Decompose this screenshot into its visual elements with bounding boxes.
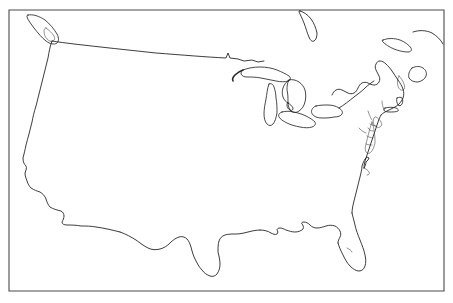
map-figure xyxy=(0,0,453,303)
map-background xyxy=(0,0,453,303)
map-canvas xyxy=(0,0,453,303)
